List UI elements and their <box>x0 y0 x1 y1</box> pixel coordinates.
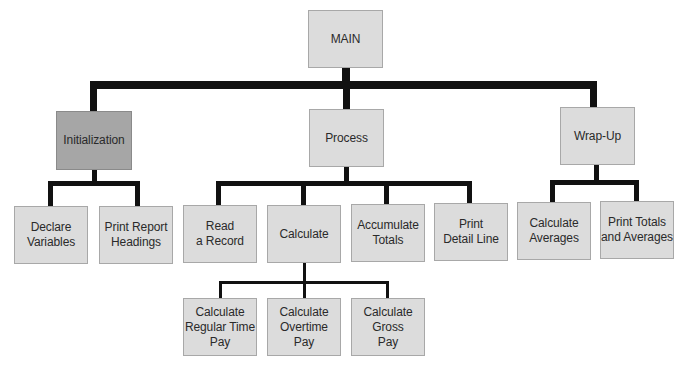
connector-to-read-a-record <box>216 181 221 206</box>
node-process: Process <box>309 109 384 167</box>
node-calculate-overtime-pay: Calculate Overtime Pay <box>267 298 341 356</box>
connector-wrapup-bar <box>550 180 639 185</box>
node-wrap-up: Wrap-Up <box>560 107 635 165</box>
node-accumulate-totals: Accumulate Totals <box>351 204 425 262</box>
connector-to-initialization <box>90 81 97 112</box>
connector-to-wrapup <box>590 81 597 108</box>
node-calculate-regular-time-pay: Calculate Regular Time Pay <box>183 298 257 356</box>
connector-initialization-bar <box>48 181 140 186</box>
connector-process-bar <box>216 181 472 186</box>
node-declare-variables: Declare Variables <box>14 206 88 264</box>
connector-to-print-report-headings <box>135 181 140 207</box>
connector-to-declare-variables <box>48 181 53 207</box>
connector-to-print-totals <box>634 180 639 203</box>
node-calculate-averages: Calculate Averages <box>517 202 591 260</box>
connector-calculate-down <box>303 263 306 283</box>
connector-to-process <box>343 81 350 110</box>
node-read-a-record: Read a Record <box>183 205 257 263</box>
connector-to-overtime-pay <box>303 281 306 299</box>
connector-to-accumulate-totals <box>384 181 389 206</box>
node-calculate-gross-pay: Calculate Gross Pay <box>351 298 425 356</box>
connector-to-regular-time-pay <box>219 281 222 299</box>
node-print-totals-and-averages: Print Totals and Averages <box>600 201 674 259</box>
connector-to-calculate <box>301 181 306 206</box>
node-print-report-headings: Print Report Headings <box>99 206 173 264</box>
node-main: MAIN <box>308 10 383 68</box>
node-print-detail-line: Print Detail Line <box>434 203 508 261</box>
node-calculate: Calculate <box>267 205 341 263</box>
connector-to-gross-pay <box>386 281 389 299</box>
connector-to-calculate-averages <box>550 180 555 203</box>
node-initialization: Initialization <box>56 111 132 170</box>
